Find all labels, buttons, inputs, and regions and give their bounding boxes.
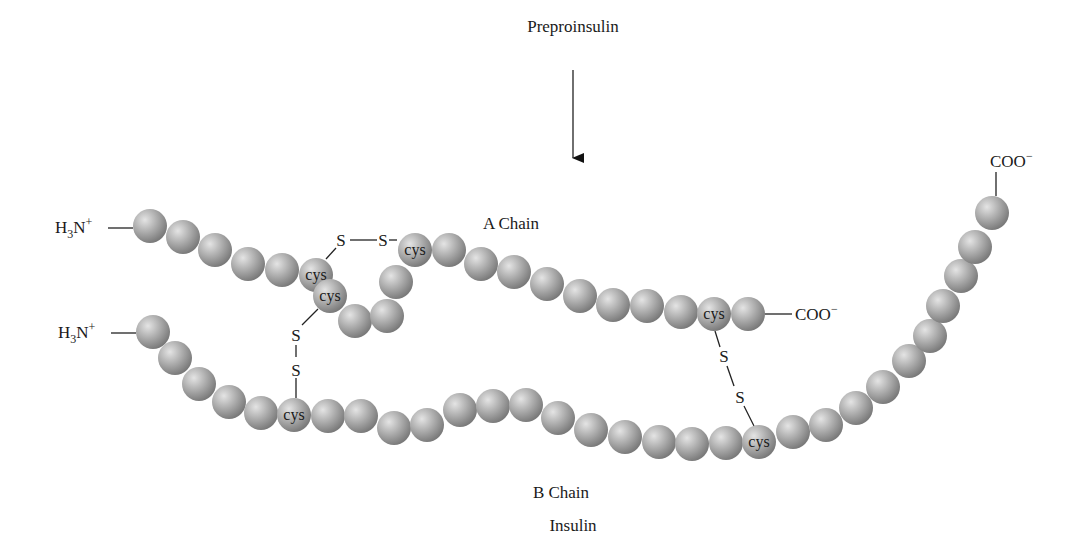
amino-acid-residue: [839, 391, 873, 425]
sulfur-atom: S: [291, 326, 300, 345]
amino-acid-residue: [975, 196, 1009, 230]
amino-acid-residue: [926, 289, 960, 323]
amino-acid-residue: [608, 420, 642, 454]
a-chain-label: A Chain: [483, 214, 540, 233]
b-chain-n-terminus: H3N+: [58, 320, 136, 346]
insulin-label: Insulin: [549, 516, 597, 535]
amino-acid-residue: [265, 253, 299, 287]
amino-acid-residue: [866, 370, 900, 404]
amino-acid-residue: [563, 279, 597, 313]
svg-text:H3N+: H3N+: [58, 320, 96, 346]
sulfur-atom: S: [291, 361, 300, 380]
amino-acid-residue: [370, 299, 404, 333]
amino-acid-residue: [476, 389, 510, 423]
amino-acid-residue: [198, 233, 232, 267]
sulfur-atom: S: [735, 388, 744, 407]
cys-label: cys: [283, 406, 304, 424]
amino-acid-residue: [443, 393, 477, 427]
amino-acid-residue: [311, 399, 345, 433]
a-chain: cyscyscyscys: [133, 209, 765, 338]
amino-acid-residue: [509, 388, 543, 422]
amino-acid-residue: [136, 315, 170, 349]
insulin-diagram: Preproinsulin H3N+ H3N+ COO− COO− S S S …: [0, 0, 1092, 555]
disulfide-bond-interchain-bottom: [715, 331, 754, 426]
cys-label: cys: [703, 305, 724, 323]
amino-acid-residue: [809, 408, 843, 442]
svg-text:COO−: COO−: [990, 149, 1033, 171]
a-chain-c-terminus: COO−: [765, 302, 838, 324]
amino-acid-residue: [913, 319, 947, 353]
amino-acid-residue: [596, 288, 630, 322]
a-chain-n-terminus: H3N+: [55, 215, 133, 241]
svg-text:COO−: COO−: [795, 302, 838, 324]
b-chain-label: B Chain: [533, 483, 590, 502]
amino-acid-residue: [530, 267, 564, 301]
amino-acid-residue: [709, 426, 743, 460]
amino-acid-residue: [231, 247, 265, 281]
amino-acid-residue: [377, 411, 411, 445]
amino-acid-residue: [244, 396, 278, 430]
sulfur-atom: S: [378, 231, 387, 250]
sulfur-atom: S: [719, 347, 728, 366]
amino-acid-residue: [944, 259, 978, 293]
amino-acid-residue: [664, 295, 698, 329]
amino-acid-residue: [379, 265, 413, 299]
cys-label: cys: [748, 433, 769, 451]
amino-acid-residue: [338, 304, 372, 338]
amino-acid-residue: [574, 413, 608, 447]
disulfide-bond-b-chain: [296, 309, 318, 398]
amino-acid-residue: [182, 367, 216, 401]
sulfur-atom: S: [336, 231, 345, 250]
amino-acid-residue: [166, 220, 200, 254]
amino-acid-residue: [642, 425, 676, 459]
amino-acid-residue: [464, 247, 498, 281]
cys-label: cys: [404, 241, 425, 259]
amino-acid-residue: [541, 401, 575, 435]
amino-acid-residue: [958, 230, 992, 264]
amino-acid-residue: [630, 289, 664, 323]
amino-acid-residue: [432, 233, 466, 267]
amino-acid-residue: [731, 297, 765, 331]
amino-acid-residue: [776, 415, 810, 449]
b-chain: cyscys: [136, 196, 1009, 461]
svg-text:H3N+: H3N+: [55, 215, 93, 241]
cys-label: cys: [319, 287, 340, 305]
amino-acid-residue: [212, 385, 246, 419]
amino-acid-residue: [410, 408, 444, 442]
b-chain-c-terminus: COO−: [990, 149, 1033, 196]
amino-acid-residue: [675, 427, 709, 461]
preproinsulin-label: Preproinsulin: [527, 17, 619, 36]
amino-acid-residue: [497, 255, 531, 289]
amino-acid-residue: [158, 341, 192, 375]
amino-acid-residue: [133, 209, 167, 243]
amino-acid-residue: [344, 399, 378, 433]
